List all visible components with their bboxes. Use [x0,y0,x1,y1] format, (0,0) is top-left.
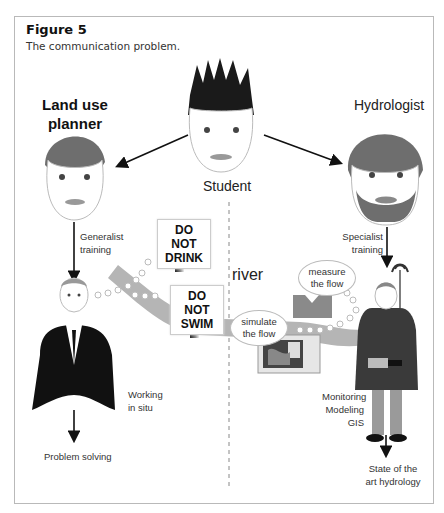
bubble-measure-the-flow: measure the flow [298,260,356,296]
label-hydrologist: Hydrologist [354,97,424,113]
arrow-to-hydrologist [264,135,340,163]
planner-figure [32,278,115,410]
label-generalist-training: Generalist training [80,230,123,256]
arrow-to-planner [118,135,188,166]
hydrologist-figure [355,265,418,443]
hydrologist-face [348,134,423,225]
label-specialist-training: Specialist training [340,230,383,256]
label-problem-solving: Problem solving [44,450,112,463]
label-working-in-situ: Working in situ [128,388,163,414]
student-face [188,58,254,172]
sign-do-not-swim: DO NOT SWIM [170,285,224,335]
planner-face [45,136,105,220]
illustration [0,0,444,513]
label-monitoring-modeling-gis: Monitoring Modeling GIS [322,390,364,429]
label-land-use-planner: Land use planner [40,95,110,133]
label-river: river [232,266,263,284]
bubble-simulate-the-flow: simulate the flow [230,310,288,346]
sign-do-not-drink: DO NOT DRINK [157,219,211,269]
label-state-of-art-hydrology: State of the art hydrology [362,462,424,488]
label-student: Student [203,178,251,194]
